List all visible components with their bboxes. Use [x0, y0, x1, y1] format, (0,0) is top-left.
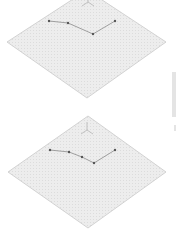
right-edge-marks [172, 72, 176, 117]
right-edge-mark-lower [174, 125, 176, 131]
isometric-plane-bottom [8, 116, 166, 228]
path-point [93, 162, 95, 164]
isometric-diagram [0, 0, 176, 231]
path-point [114, 149, 116, 151]
plane-diamond [8, 116, 166, 228]
plane-diamond [7, 0, 166, 98]
path-point [81, 156, 83, 158]
path-point [114, 20, 116, 22]
path-point [49, 149, 51, 151]
path-point [67, 22, 69, 24]
path-point [48, 20, 50, 22]
path-point [68, 151, 70, 153]
isometric-plane-top [7, 0, 166, 98]
path-point [92, 33, 94, 35]
